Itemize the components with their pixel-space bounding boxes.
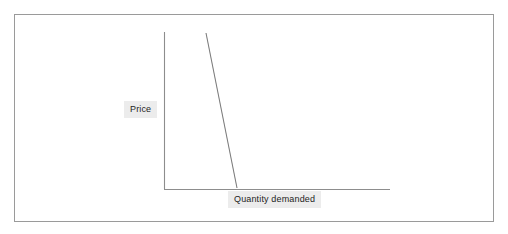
y-axis-label-price: Price [124, 101, 157, 118]
x-axis-label-quantity-demanded: Quantity demanded [228, 191, 321, 208]
demand-curve-figure: Price Quantity demanded [0, 0, 508, 234]
